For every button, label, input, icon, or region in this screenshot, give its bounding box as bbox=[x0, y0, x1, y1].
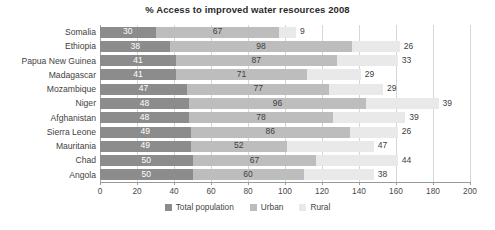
bar-value-label: 77 bbox=[187, 83, 329, 94]
x-tick-mark bbox=[396, 182, 397, 185]
category-axis-labels: SomaliaEthiopiaPapua New GuineaMadagasca… bbox=[0, 25, 96, 182]
bar-value-label: 47 bbox=[100, 83, 187, 94]
category-label: Chad bbox=[75, 153, 96, 167]
bar-value-label: 41 bbox=[100, 55, 176, 66]
bar-value-label: 87 bbox=[176, 55, 337, 66]
x-tick-mark bbox=[470, 182, 471, 185]
bar-row: 506038 bbox=[100, 168, 470, 182]
category-label: Madagascar bbox=[49, 68, 96, 82]
bar-value-label: 38 bbox=[100, 41, 170, 52]
x-tick-mark bbox=[322, 182, 323, 185]
bar-segment bbox=[287, 141, 374, 152]
bar-value-label: 26 bbox=[402, 126, 411, 137]
x-tick-label: 40 bbox=[154, 186, 194, 196]
category-label: Mozambique bbox=[47, 82, 96, 96]
bar-row: 30679 bbox=[100, 25, 470, 39]
bar-value-label: 86 bbox=[191, 126, 350, 137]
legend-swatch-icon bbox=[250, 204, 257, 211]
legend-swatch-icon bbox=[165, 204, 172, 211]
category-label: Somalia bbox=[65, 25, 96, 39]
category-label: Ethiopia bbox=[65, 39, 96, 53]
bar-value-label: 78 bbox=[189, 112, 333, 123]
legend-label: Urban bbox=[261, 202, 284, 212]
bar-value-label: 39 bbox=[409, 112, 418, 123]
x-tick-mark bbox=[137, 182, 138, 185]
bar-value-label: 33 bbox=[402, 55, 411, 66]
x-tick-label: 120 bbox=[302, 186, 342, 196]
plot-area: 3067938982641873341712947772948963948783… bbox=[100, 25, 470, 182]
legend-label: Rural bbox=[310, 202, 330, 212]
gridline bbox=[470, 25, 471, 182]
bar-value-label: 49 bbox=[100, 126, 191, 137]
bar-value-label: 67 bbox=[193, 155, 317, 166]
bar-segment bbox=[329, 84, 383, 95]
chart-legend: Total populationUrbanRural bbox=[0, 202, 495, 212]
bar-value-label: 71 bbox=[176, 69, 307, 80]
legend-item[interactable]: Rural bbox=[299, 202, 330, 212]
chart-container: % Access to improved water resources 200… bbox=[0, 0, 495, 230]
x-tick-label: 80 bbox=[228, 186, 268, 196]
bar-segment bbox=[352, 41, 400, 52]
bar-row: 418733 bbox=[100, 54, 470, 68]
bar-value-label: 50 bbox=[100, 155, 193, 166]
legend-item[interactable]: Urban bbox=[250, 202, 284, 212]
bar-rows: 3067938982641873341712947772948963948783… bbox=[100, 25, 470, 182]
bar-value-label: 29 bbox=[387, 83, 396, 94]
bar-value-label: 60 bbox=[193, 169, 304, 180]
bar-segment bbox=[366, 98, 438, 109]
bar-value-label: 44 bbox=[402, 155, 411, 166]
category-label: Sierra Leone bbox=[47, 125, 96, 139]
bar-segment bbox=[337, 55, 398, 66]
bar-value-label: 30 bbox=[100, 26, 156, 37]
x-tick-mark bbox=[211, 182, 212, 185]
bar-segment bbox=[333, 112, 405, 123]
x-tick-label: 100 bbox=[265, 186, 305, 196]
x-tick-mark bbox=[174, 182, 175, 185]
category-label: Mauritania bbox=[56, 139, 96, 153]
bar-row: 389826 bbox=[100, 39, 470, 53]
bar-value-label: 96 bbox=[189, 98, 367, 109]
bar-row: 417129 bbox=[100, 68, 470, 82]
category-label: Angola bbox=[69, 168, 96, 182]
bar-value-label: 67 bbox=[156, 26, 280, 37]
bar-value-label: 48 bbox=[100, 98, 189, 109]
x-tick-mark bbox=[359, 182, 360, 185]
x-tick-mark bbox=[100, 182, 101, 185]
x-tick-label: 180 bbox=[413, 186, 453, 196]
x-tick-label: 60 bbox=[191, 186, 231, 196]
x-tick-mark bbox=[433, 182, 434, 185]
bar-row: 477729 bbox=[100, 82, 470, 96]
x-tick-label: 160 bbox=[376, 186, 416, 196]
bar-row: 506744 bbox=[100, 153, 470, 167]
bar-row: 487839 bbox=[100, 111, 470, 125]
legend-swatch-icon bbox=[299, 204, 306, 211]
bar-value-label: 50 bbox=[100, 169, 193, 180]
bar-segment bbox=[350, 127, 398, 138]
bar-row: 498626 bbox=[100, 125, 470, 139]
x-tick-label: 200 bbox=[450, 186, 490, 196]
bar-row: 495247 bbox=[100, 139, 470, 153]
x-tick-label: 140 bbox=[339, 186, 379, 196]
x-tick-mark bbox=[285, 182, 286, 185]
bar-segment bbox=[279, 27, 296, 38]
x-tick-label: 20 bbox=[117, 186, 157, 196]
bar-value-label: 26 bbox=[404, 41, 413, 52]
x-tick-label: 0 bbox=[80, 186, 120, 196]
bar-segment bbox=[316, 155, 397, 166]
bar-segment bbox=[307, 69, 361, 80]
category-label: Papua New Guinea bbox=[21, 54, 96, 68]
bar-value-label: 98 bbox=[170, 41, 351, 52]
category-label: Afghanistan bbox=[51, 111, 96, 125]
bar-segment bbox=[304, 169, 374, 180]
legend-label: Total population bbox=[176, 202, 234, 212]
bar-value-label: 41 bbox=[100, 69, 176, 80]
bar-value-label: 49 bbox=[100, 140, 191, 151]
bar-value-label: 29 bbox=[365, 69, 374, 80]
bar-value-label: 39 bbox=[443, 98, 452, 109]
bar-value-label: 9 bbox=[300, 26, 305, 37]
legend-item[interactable]: Total population bbox=[165, 202, 234, 212]
chart-title: % Access to improved water resources 200… bbox=[0, 4, 495, 15]
bar-row: 489639 bbox=[100, 96, 470, 110]
bar-value-label: 47 bbox=[378, 140, 387, 151]
category-label: Niger bbox=[75, 96, 96, 110]
